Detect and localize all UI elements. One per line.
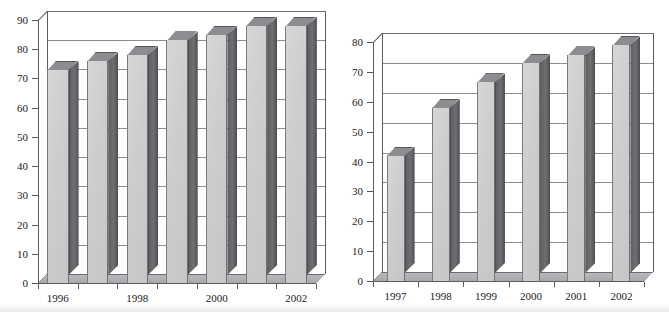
bar-2001 xyxy=(567,46,594,281)
bar-side-face xyxy=(108,52,118,275)
bar-1998 xyxy=(127,46,157,283)
x-axis-label-2001: 2001 xyxy=(565,290,587,302)
x-tickmark-4 xyxy=(197,284,198,289)
bar-2002 xyxy=(285,17,315,283)
x-tickmark-1 xyxy=(418,282,419,287)
bar-side-face xyxy=(405,147,415,273)
x-axis-label-1998: 1998 xyxy=(430,290,452,302)
bar-side-face xyxy=(450,99,460,273)
x-axis-label-2002: 2002 xyxy=(610,290,632,302)
y-axis-label-40: 40 xyxy=(339,156,363,168)
bar-1997 xyxy=(387,147,414,281)
y-tickmark-80 xyxy=(32,49,38,50)
bar-2000 xyxy=(522,54,549,281)
x-tickmark-2 xyxy=(463,282,464,287)
x-tickmark-2 xyxy=(117,284,118,289)
bar-1999 xyxy=(477,73,504,281)
x-axis-label-1996: 1996 xyxy=(47,292,69,304)
y-axis-line xyxy=(373,42,374,281)
bar-side-face xyxy=(585,46,595,273)
x-axis-label-1999: 1999 xyxy=(475,290,497,302)
x-tickmark-0 xyxy=(373,282,374,287)
y-axis-label-20: 20 xyxy=(4,219,28,231)
y-axis-label-30: 30 xyxy=(4,189,28,201)
bar-front-face xyxy=(522,63,540,281)
bar-side-face xyxy=(69,61,79,275)
y-tickmark-60 xyxy=(367,102,373,103)
y-tickmark-30 xyxy=(367,191,373,192)
bar-front-face xyxy=(246,26,267,283)
bar-front-face xyxy=(127,55,148,283)
x-axis-label-1998: 1998 xyxy=(126,292,148,304)
x-tickmark-3 xyxy=(509,282,510,287)
y-axis-label-10: 10 xyxy=(4,248,28,260)
bar-side-face xyxy=(630,36,640,273)
y-axis-label-30: 30 xyxy=(339,185,363,197)
y-axis-label-70: 70 xyxy=(4,72,28,84)
bar-front-face xyxy=(387,156,405,281)
bar-2001 xyxy=(246,17,276,283)
bar-front-face xyxy=(567,55,585,281)
y-tickmark-20 xyxy=(367,221,373,222)
bar-2002 xyxy=(612,36,639,281)
y-axis-label-50: 50 xyxy=(339,126,363,138)
bar-1999 xyxy=(166,31,196,283)
bar-front-face xyxy=(87,61,108,283)
y-axis-line xyxy=(38,20,39,283)
bar-side-face xyxy=(188,31,198,275)
y-axis-label-60: 60 xyxy=(339,96,363,108)
x-tickmark-5 xyxy=(237,284,238,289)
y-axis-label-80: 80 xyxy=(4,43,28,55)
bar-front-face xyxy=(432,108,450,281)
x-tickmark-end xyxy=(316,284,317,289)
y-tickmark-50 xyxy=(32,137,38,138)
y-axis-label-70: 70 xyxy=(339,66,363,78)
y-tickmark-50 xyxy=(367,132,373,133)
y-tickmark-40 xyxy=(367,162,373,163)
x-tickmark-5 xyxy=(599,282,600,287)
y-axis-label-80: 80 xyxy=(339,36,363,48)
bar-chart-right: 0102030405060708019971998199920002001200… xyxy=(335,0,669,312)
y-axis-line-back xyxy=(382,33,383,272)
y-tickmark-70 xyxy=(367,72,373,73)
bar-1998 xyxy=(432,99,459,281)
bar-1997 xyxy=(87,52,117,283)
y-axis-label-20: 20 xyxy=(339,215,363,227)
x-tickmark-end xyxy=(644,282,645,287)
bar-front-face xyxy=(285,26,306,283)
x-axis-baseline xyxy=(373,281,644,282)
bar-front-face xyxy=(612,45,630,281)
bar-front-face xyxy=(477,82,495,281)
bar-chart-left: 01020304050607080901996199820002002 xyxy=(0,0,335,312)
right-wall-line xyxy=(325,11,326,274)
y-tickmark-70 xyxy=(32,78,38,79)
y-axis-label-40: 40 xyxy=(4,160,28,172)
bar-side-face xyxy=(267,17,277,275)
bar-side-face xyxy=(307,17,317,275)
gridline-80 xyxy=(382,33,653,34)
x-tickmark-0 xyxy=(38,284,39,289)
y-tickmark-10 xyxy=(32,254,38,255)
y-axis-label-0: 0 xyxy=(4,277,28,289)
y-axis-label-0: 0 xyxy=(339,275,363,287)
x-axis-label-2002: 2002 xyxy=(285,292,307,304)
x-tickmark-3 xyxy=(157,284,158,289)
bar-front-face xyxy=(206,35,227,283)
bar-front-face xyxy=(166,40,187,283)
x-axis-label-1997: 1997 xyxy=(385,290,407,302)
y-axis-label-50: 50 xyxy=(4,131,28,143)
y-axis-label-90: 90 xyxy=(4,14,28,26)
y-tickmark-90 xyxy=(32,20,38,21)
bar-side-face xyxy=(227,26,237,275)
bar-side-face xyxy=(148,46,158,275)
x-tickmark-4 xyxy=(554,282,555,287)
y-tickmark-40 xyxy=(32,166,38,167)
y-tickmark-60 xyxy=(32,108,38,109)
bar-side-face xyxy=(540,54,550,273)
y-tickmark-80 xyxy=(367,42,373,43)
gridline-90 xyxy=(47,11,325,12)
bar-side-face xyxy=(495,73,505,273)
bar-2000 xyxy=(206,26,236,283)
bar-front-face xyxy=(47,70,68,283)
y-axis-label-60: 60 xyxy=(4,102,28,114)
